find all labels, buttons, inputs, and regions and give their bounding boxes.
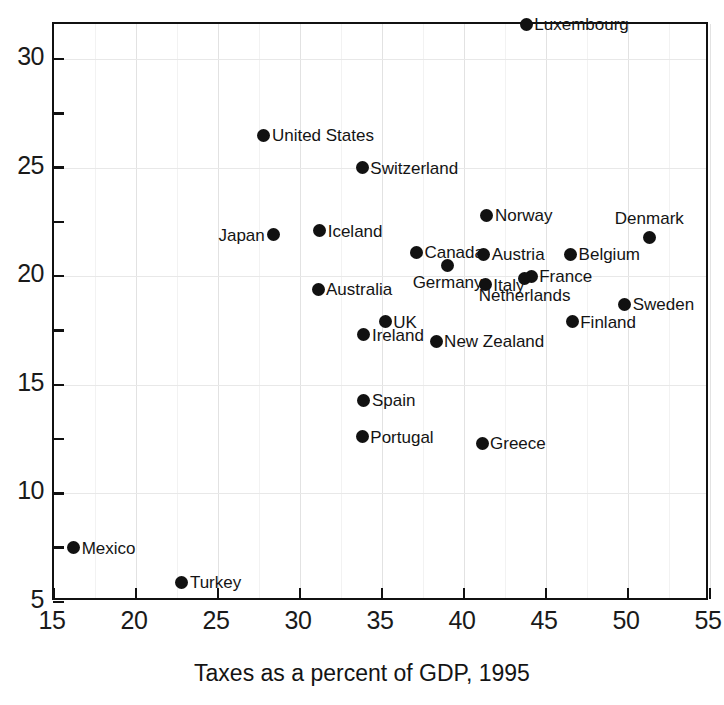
data-point-label: Ireland <box>372 326 424 343</box>
data-point-label: Denmark <box>615 210 684 227</box>
gridline-vertical <box>710 24 711 598</box>
data-point[interactable] <box>312 283 325 296</box>
data-point-label: Spain <box>372 392 415 409</box>
data-point[interactable] <box>476 437 489 450</box>
gridline-vertical <box>300 24 301 598</box>
data-point[interactable] <box>175 576 188 589</box>
x-tick-label: 20 <box>104 606 164 635</box>
y-tick <box>53 275 64 278</box>
x-tick <box>381 588 384 599</box>
y-tick-label: 20 <box>0 259 44 288</box>
data-point[interactable] <box>257 129 270 142</box>
gridline-vertical <box>628 24 629 598</box>
data-point-label: Norway <box>495 207 553 224</box>
x-tick-label: 30 <box>268 606 328 635</box>
gridline-horizontal <box>54 385 706 386</box>
data-point[interactable] <box>566 315 579 328</box>
y-tick-minor <box>53 438 64 441</box>
data-point-label: Sweden <box>633 296 694 313</box>
data-point-label: Greece <box>490 435 546 452</box>
gridline-horizontal <box>54 276 706 277</box>
data-point-label: France <box>539 268 592 285</box>
gridline-vertical-minor <box>95 24 96 598</box>
y-tick <box>53 166 64 169</box>
x-tick-label: 45 <box>514 606 574 635</box>
x-tick-label: 50 <box>596 606 656 635</box>
y-tick <box>53 58 64 61</box>
data-point[interactable] <box>357 394 370 407</box>
data-point-label: Portugal <box>370 428 433 445</box>
data-point-label: Austria <box>492 246 545 263</box>
data-point-label: Italy <box>493 276 524 293</box>
y-tick-label: 15 <box>0 368 44 397</box>
y-tick <box>53 601 64 604</box>
data-point[interactable] <box>477 248 490 261</box>
gridline-horizontal <box>54 493 706 494</box>
y-tick-label: 5 <box>0 585 44 614</box>
data-point[interactable] <box>618 298 631 311</box>
data-point-label: Turkey <box>190 574 241 591</box>
data-point[interactable] <box>564 248 577 261</box>
x-tick-label: 25 <box>186 606 246 635</box>
y-tick-minor <box>53 546 64 549</box>
data-point-label: Switzerland <box>370 159 458 176</box>
data-point[interactable] <box>67 541 80 554</box>
data-point-label: United States <box>272 127 374 144</box>
data-point[interactable] <box>520 18 533 31</box>
data-point[interactable] <box>410 246 423 259</box>
x-axis-title: Taxes as a percent of GDP, 1995 <box>0 660 724 687</box>
y-tick-minor <box>53 221 64 224</box>
gridline-vertical <box>136 24 137 598</box>
gridline-horizontal <box>54 59 706 60</box>
x-tick-label: 35 <box>350 606 410 635</box>
y-tick-label: 10 <box>0 476 44 505</box>
gridline-vertical-minor <box>423 24 424 598</box>
gridline-vertical <box>382 24 383 598</box>
gridline-vertical-minor <box>505 24 506 598</box>
data-point[interactable] <box>357 328 370 341</box>
y-tick-minor <box>53 329 64 332</box>
gridline-vertical-minor <box>177 24 178 598</box>
x-tick <box>463 588 466 599</box>
y-tick-label: 25 <box>0 151 44 180</box>
x-tick <box>135 588 138 599</box>
data-point-label: Germany <box>413 274 483 291</box>
data-point[interactable] <box>313 224 326 237</box>
y-tick-label: 30 <box>0 42 44 71</box>
plot-area: LuxembourgUnited StatesSwitzerlandNorway… <box>52 22 708 600</box>
gridline-vertical-minor <box>259 24 260 598</box>
y-tick-minor <box>53 112 64 115</box>
data-point[interactable] <box>441 259 454 272</box>
data-point-label: Mexico <box>82 539 136 556</box>
gridline-vertical <box>464 24 465 598</box>
scatter-chart: LuxembourgUnited StatesSwitzerlandNorway… <box>0 0 724 705</box>
data-point[interactable] <box>356 430 369 443</box>
x-tick-label: 40 <box>432 606 492 635</box>
data-point[interactable] <box>480 209 493 222</box>
x-tick <box>545 588 548 599</box>
data-point-label: Iceland <box>328 222 383 239</box>
data-point-label: Luxembourg <box>534 16 629 33</box>
data-point[interactable] <box>267 228 280 241</box>
data-point[interactable] <box>643 231 656 244</box>
y-tick <box>53 384 64 387</box>
x-tick-label: 55 <box>678 606 724 635</box>
data-point[interactable] <box>356 161 369 174</box>
y-tick <box>53 492 64 495</box>
gridline-vertical-minor <box>341 24 342 598</box>
data-point-label: Belgium <box>579 246 640 263</box>
x-tick <box>53 588 56 599</box>
gridline-vertical-minor <box>587 24 588 598</box>
gridline-vertical <box>546 24 547 598</box>
x-tick <box>627 588 630 599</box>
data-point[interactable] <box>430 335 443 348</box>
x-tick <box>709 588 712 599</box>
data-point-label: Canada <box>424 244 484 261</box>
data-point-label: Finland <box>580 313 636 330</box>
data-point-label: Japan <box>218 226 264 243</box>
gridline-vertical <box>218 24 219 598</box>
data-point-label: Australia <box>326 281 392 298</box>
data-point-label: New Zealand <box>444 333 544 350</box>
x-tick <box>299 588 302 599</box>
